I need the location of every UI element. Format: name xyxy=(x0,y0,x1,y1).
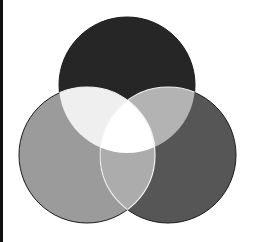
venn-diagram xyxy=(0,0,255,242)
